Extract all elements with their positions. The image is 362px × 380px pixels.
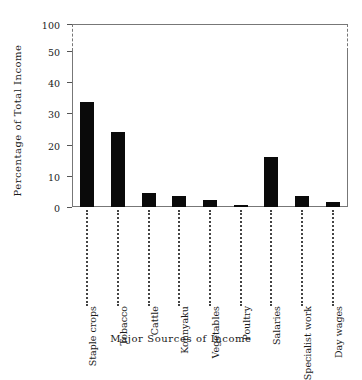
y-tick-label: 40	[48, 78, 60, 89]
y-tick-label: 20	[48, 140, 60, 151]
x-category-label: Salaries	[271, 267, 282, 306]
x-category: Konnyaku	[178, 210, 180, 306]
y-tick-20: 20	[67, 145, 72, 146]
x-category: Cattle	[148, 210, 150, 306]
y-tick-label: 100	[42, 20, 60, 31]
y-tick-40: 40	[67, 82, 72, 83]
y-tick-50: 50	[67, 51, 72, 52]
x-category: Staple crops	[86, 210, 88, 306]
y-tick-label: 30	[48, 109, 60, 120]
y-tick-label: 0	[54, 203, 60, 214]
bar	[172, 196, 186, 207]
y-axis-title: Percentage of Total Income	[12, 26, 23, 216]
x-category-label: Konnyaku	[179, 258, 190, 306]
bar	[111, 132, 125, 207]
bar	[264, 157, 278, 207]
x-category: Vegetables	[209, 210, 211, 306]
axis-break-left	[72, 24, 73, 51]
x-category-label-text: Cattle	[149, 306, 160, 335]
bar	[203, 200, 217, 207]
bar	[234, 205, 248, 207]
x-category: Day wages	[332, 210, 334, 306]
plot-area: 01020304050100 Staple cropsTobaccoCattle…	[72, 24, 348, 207]
x-category: Specialist work	[301, 210, 303, 306]
y-tick-100: 100	[67, 24, 72, 25]
bar	[295, 196, 309, 207]
bar	[80, 102, 94, 207]
x-category-label-text: Konnyaku	[179, 306, 190, 354]
x-category-label: Staple crops	[87, 246, 98, 306]
x-category-label: Day wages	[333, 254, 344, 306]
y-tick-0: 0	[67, 207, 72, 208]
x-category-label: Specialist work	[302, 232, 313, 306]
y-tick-label: 10	[48, 171, 60, 182]
bar	[142, 193, 156, 207]
x-category: Poultry	[240, 210, 242, 306]
x-category-label: Cattle	[149, 277, 160, 306]
x-category-label: Vegetables	[210, 254, 221, 306]
y-tick-10: 10	[67, 176, 72, 177]
x-category: Salaries	[270, 210, 272, 306]
y-tick-30: 30	[67, 113, 72, 114]
x-axis-title: Major Sources of Income	[0, 333, 362, 344]
axis-break-right	[347, 24, 348, 51]
bar	[326, 202, 340, 207]
x-category: Tobacco	[117, 210, 119, 306]
x-category-label: Tobacco	[118, 267, 129, 306]
x-category-label: Poultry	[241, 271, 252, 306]
y-tick-label: 50	[48, 47, 60, 58]
plot-frame-top	[72, 24, 348, 25]
